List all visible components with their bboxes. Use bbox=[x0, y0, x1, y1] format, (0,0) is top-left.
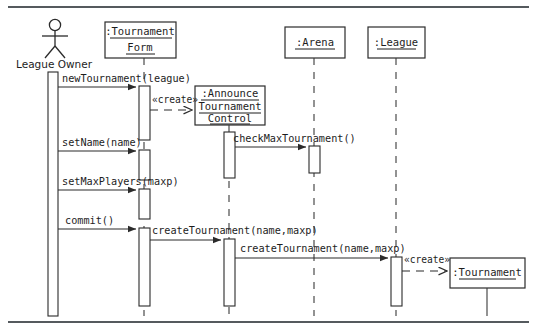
message-commit: commit() bbox=[58, 215, 136, 229]
lifeline-box-tournament-form: :Tournament Form bbox=[105, 22, 176, 58]
message-set-name: setName(name) bbox=[58, 137, 142, 151]
message-label-set-max-players: setMaxPlayers(maxp) bbox=[62, 176, 179, 187]
message-check-max-tournament: checkMaxTournament() bbox=[233, 133, 356, 147]
stick-figure-actor-icon bbox=[49, 19, 60, 30]
lifeline-label-line-1: :Tournament bbox=[105, 25, 175, 37]
message-create-tournament-control: createTournament(name,maxp) bbox=[150, 225, 318, 240]
activation-form-1 bbox=[139, 86, 150, 140]
lifeline-box-announce-tournament-control: :Announce Tournament Control bbox=[195, 86, 265, 125]
message-label-set-name: setName(name) bbox=[62, 137, 142, 148]
activation-league-1 bbox=[391, 257, 402, 306]
message-label-check-max-tournament: checkMaxTournament() bbox=[233, 133, 356, 144]
control-label-line-2: Tournament bbox=[198, 100, 261, 112]
message-create-tournament-object: «create» bbox=[402, 254, 450, 271]
sequence-diagram-canvas: League Owner :Tournament Form :Announce … bbox=[0, 0, 537, 330]
message-label-commit: commit() bbox=[65, 215, 114, 226]
activation-form-3 bbox=[139, 189, 150, 219]
tournament-label: :Tournament bbox=[452, 266, 522, 278]
message-create-tournament-league: createTournament(name,maxp) bbox=[235, 243, 406, 258]
message-set-max-players: setMaxPlayers(maxp) bbox=[58, 176, 179, 190]
message-label-new-tournament: newTournament(league) bbox=[62, 73, 191, 84]
lifeline-box-league: :League bbox=[368, 27, 425, 58]
arena-label: :Arena bbox=[296, 36, 334, 48]
lifeline-label-line-2: Form bbox=[127, 41, 152, 53]
actor-label: League Owner bbox=[16, 58, 93, 70]
lifeline-box-arena: :Arena bbox=[285, 27, 345, 58]
activation-arena-1 bbox=[309, 146, 320, 173]
control-label-line-1: :Announce bbox=[202, 87, 259, 99]
message-label-create-tournament-league: createTournament(name,maxp) bbox=[240, 243, 406, 254]
message-new-tournament: newTournament(league) bbox=[58, 73, 191, 87]
actor-activation-bar bbox=[48, 72, 58, 316]
control-label-line-3: Control bbox=[208, 112, 252, 124]
league-label: :League bbox=[374, 36, 418, 48]
message-create-control: «create» bbox=[150, 94, 198, 110]
activation-form-4 bbox=[139, 228, 150, 306]
actor-league-owner: League Owner bbox=[16, 19, 93, 70]
message-label-create-control: «create» bbox=[152, 94, 198, 105]
message-label-create-tournament-object: «create» bbox=[404, 254, 450, 265]
lifeline-box-tournament: :Tournament bbox=[450, 258, 525, 288]
activation-control-2 bbox=[224, 239, 235, 306]
message-label-create-tournament-control: createTournament(name,maxp) bbox=[152, 225, 318, 236]
